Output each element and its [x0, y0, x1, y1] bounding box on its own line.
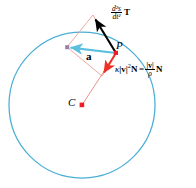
normal-acceleration-label: κ|v|2N= |v| ρ N [115, 62, 163, 79]
equals-sign: = [137, 64, 145, 74]
point-p-marker [114, 51, 118, 55]
speed-magnitude-symbol: |v| [119, 64, 127, 74]
diagram-canvas [0, 0, 196, 188]
fraction-denominator: dt² [111, 13, 122, 21]
resultant-tip-marker [65, 45, 69, 49]
rho-unit-normal-vector-symbol: N [155, 64, 163, 74]
second-derivative-fraction: d²s dt² [111, 5, 122, 22]
point-p-label: P [116, 40, 123, 51]
resultant-acceleration-vector [71, 48, 117, 53]
rho-fraction-denominator: ρ [145, 70, 154, 78]
center-c-label: C [68, 97, 75, 108]
tangential-acceleration-label: d²s dt² T [111, 5, 130, 22]
osculating-circle-diagram: P C a d²s dt² T κ|v|2N= |v| ρ N [0, 0, 196, 188]
resultant-acceleration-label: a [86, 51, 92, 62]
center-point-marker [80, 103, 85, 108]
tangential-acceleration-vector [96, 20, 117, 54]
curvature-radius-fraction: |v| ρ [145, 62, 154, 79]
unit-tangent-vector-symbol: T [122, 7, 130, 17]
